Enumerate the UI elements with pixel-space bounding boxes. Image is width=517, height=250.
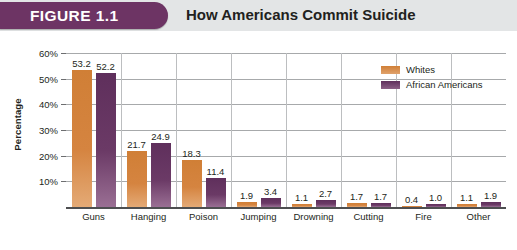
bar-hanging-african-americans: 24.9 [151, 143, 171, 207]
figure-number-label: FIGURE 1.1 [30, 7, 118, 25]
legend-label-african-americans: African Americans [406, 79, 483, 90]
figure-number-badge: FIGURE 1.1 [0, 2, 168, 29]
legend-swatch-african-americans [381, 81, 400, 89]
bar-poison-whites: 18.3 [182, 160, 202, 207]
y-axis-tick-label: 10% [39, 176, 58, 187]
bar-value-label: 1.9 [484, 190, 497, 201]
bar-drowning-african-americans: 2.7 [316, 200, 336, 207]
group-separator [341, 53, 342, 207]
y-axis-tick [61, 79, 66, 80]
y-axis-tick [61, 156, 66, 157]
category-label-hanging: Hanging [131, 211, 166, 222]
bar-value-label: 1.1 [460, 192, 473, 203]
group-separator [231, 53, 232, 207]
y-axis-tick-label: 40% [39, 99, 58, 110]
bar-jumping-african-americans: 3.4 [261, 198, 281, 207]
bar-value-label: 21.7 [127, 139, 146, 150]
category-label-guns: Guns [82, 211, 105, 222]
bar-value-label: 24.9 [151, 131, 170, 142]
x-axis-line [66, 207, 506, 209]
bar-value-label: 1.0 [429, 192, 442, 203]
bar-guns-african-americans: 52.2 [96, 73, 116, 207]
group-separator [286, 53, 287, 207]
bar-value-label: 0.4 [405, 194, 418, 205]
figure-header: FIGURE 1.1 How Americans Commit Suicide [0, 0, 517, 31]
bar-value-label: 1.9 [240, 190, 253, 201]
bar-value-label: 1.7 [350, 191, 363, 202]
bar-value-label: 3.4 [264, 186, 277, 197]
bar-value-label: 18.3 [182, 148, 201, 159]
legend-swatch-whites [381, 66, 400, 74]
category-label-cutting: Cutting [353, 211, 383, 222]
group-separator [121, 53, 122, 207]
y-axis-tick [61, 104, 66, 105]
bar-value-label: 1.7 [374, 191, 387, 202]
group-separator [176, 53, 177, 207]
y-axis-tick [61, 181, 66, 182]
y-axis-tick-label: 50% [39, 73, 58, 84]
bar-value-label: 2.7 [319, 188, 332, 199]
bar-poison-african-americans: 11.4 [206, 178, 226, 207]
category-label-fire: Fire [415, 211, 431, 222]
bar-hanging-whites: 21.7 [127, 151, 147, 207]
chart-area: Percentage 10%20%30%40%50%60% 53.252.221… [0, 31, 517, 250]
y-axis-tick-label: 60% [39, 48, 58, 59]
y-axis-tick [61, 53, 66, 54]
legend-label-whites: Whites [406, 64, 435, 75]
category-label-other: Other [467, 211, 491, 222]
category-label-jumping: Jumping [241, 211, 277, 222]
category-label-drowning: Drowning [293, 211, 333, 222]
y-axis-tick-label: 30% [39, 125, 58, 136]
bar-guns-whites: 53.2 [72, 70, 92, 207]
y-axis-tick [61, 130, 66, 131]
bar-value-label: 52.2 [96, 61, 115, 72]
legend: Whites African Americans [381, 63, 483, 93]
legend-item-whites: Whites [381, 63, 483, 76]
bar-value-label: 11.4 [207, 166, 225, 177]
bar-value-label: 1.1 [295, 192, 308, 203]
y-axis-title: Percentage [12, 90, 23, 160]
y-axis-tick-label: 20% [39, 150, 58, 161]
bar-value-label: 53.2 [72, 58, 91, 69]
legend-item-african-americans: African Americans [381, 78, 483, 91]
figure-title: How Americans Commit Suicide [186, 6, 416, 23]
category-label-poison: Poison [189, 211, 218, 222]
